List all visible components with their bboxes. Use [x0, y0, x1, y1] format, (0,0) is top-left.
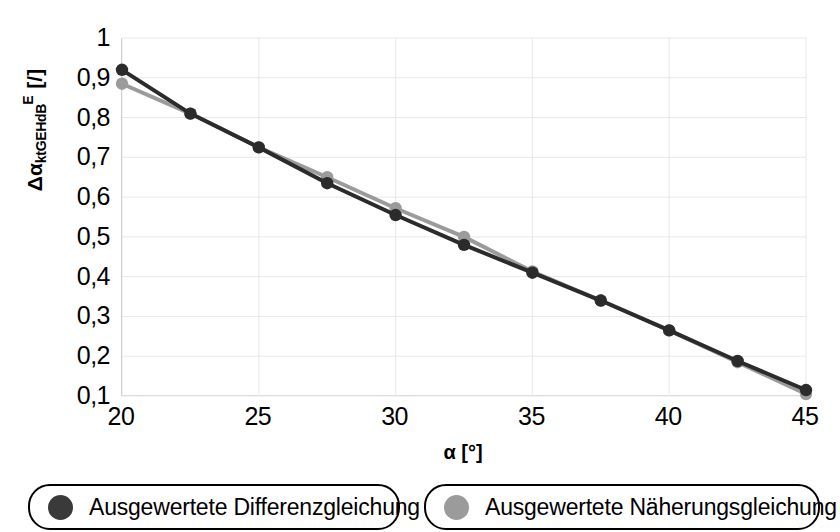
- data-point-marker: [800, 384, 812, 396]
- x-axis-tick-label: 35: [496, 402, 566, 430]
- y-axis-tick-label: 0,7: [50, 144, 110, 169]
- legend-marker-icon: [48, 495, 73, 520]
- x-axis-tick-label: 25: [223, 402, 293, 430]
- y-axis-tick-label: 0,2: [50, 343, 110, 368]
- data-point-marker: [253, 141, 265, 153]
- x-axis-tick-label: 30: [360, 402, 430, 430]
- data-series-layer: [116, 64, 812, 401]
- data-point-marker: [663, 324, 675, 336]
- data-point-marker: [116, 78, 128, 90]
- legend-item-label: Ausgewertete Näherungsgleichung: [485, 494, 837, 520]
- chart-figure: ΔαktGEHdBE [/] 0,10,20,30,40,50,60,70,80…: [0, 0, 840, 478]
- data-point-marker: [731, 355, 743, 367]
- chart-legend: Ausgewertete Differenzgleichung Ausgewer…: [0, 484, 840, 532]
- data-point-marker: [526, 266, 538, 278]
- data-point-marker: [458, 239, 470, 251]
- legend-item-naeherungsgleichung[interactable]: Ausgewertete Näherungsgleichung: [424, 484, 820, 530]
- y-axis-tick-label: 0,9: [50, 65, 110, 90]
- x-axis-tick-label: 40: [633, 402, 703, 430]
- y-axis-title-base: Δα: [23, 163, 46, 191]
- legend-item-label: Ausgewertete Differenzgleichung: [89, 494, 420, 520]
- y-axis-title-superscript: E: [20, 95, 36, 104]
- data-point-marker: [184, 107, 196, 119]
- y-axis-tick-label: 1: [50, 25, 110, 50]
- x-axis-tick-label: 20: [86, 402, 156, 430]
- gridlines: [122, 38, 806, 396]
- data-point-marker: [116, 64, 128, 76]
- legend-item-differenzgleichung[interactable]: Ausgewertete Differenzgleichung: [28, 484, 400, 530]
- x-axis-tick-labels: 202530354045: [0, 402, 840, 436]
- data-point-marker: [321, 177, 333, 189]
- data-point-marker: [389, 209, 401, 221]
- legend-marker-icon: [444, 495, 469, 520]
- y-axis-title-unit: [/]: [23, 69, 46, 89]
- y-axis-title-subscript: ktGEHdB: [33, 104, 49, 163]
- y-axis-tick-label: 0,6: [50, 184, 110, 209]
- x-axis-tick-label: 45: [770, 402, 840, 430]
- y-axis-tick-label: 0,4: [50, 264, 110, 289]
- x-axis-title: α [°]: [121, 441, 805, 464]
- y-axis-tick-label: 0,5: [50, 224, 110, 249]
- y-axis-tick-label: 0,3: [50, 303, 110, 328]
- data-point-marker: [595, 294, 607, 306]
- plot-canvas: [122, 38, 806, 396]
- y-axis-tick-label: 0,8: [50, 105, 110, 130]
- plot-area: [121, 38, 805, 396]
